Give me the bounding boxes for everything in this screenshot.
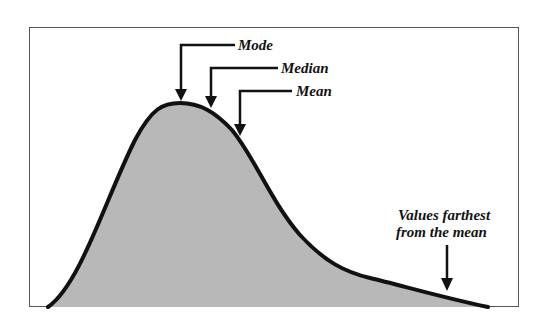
mode-label: Mode: [238, 37, 273, 54]
mean-arrow-icon: [234, 91, 292, 136]
mean-label: Mean: [296, 83, 332, 100]
distribution-curve: [0, 0, 546, 333]
tail-arrow-icon: [441, 245, 453, 291]
median-arrow-icon: [205, 68, 278, 108]
curve-fill: [48, 103, 488, 307]
mode-arrow-icon: [175, 45, 235, 101]
tail-label-line1: Values farthest: [398, 207, 490, 224]
median-label: Median: [281, 60, 329, 77]
tail-label-line2: from the mean: [396, 224, 487, 241]
